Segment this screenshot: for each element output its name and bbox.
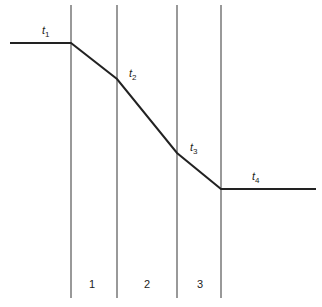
label-t4: t4 — [252, 170, 260, 185]
label-t2: t2 — [129, 67, 137, 82]
temperature-profile-line — [10, 43, 316, 189]
zone-label-1: 1 — [89, 278, 95, 290]
label-t1: t1 — [42, 24, 50, 39]
zone-label-3: 3 — [197, 278, 203, 290]
zone-label-2: 2 — [144, 278, 150, 290]
temperature-profile-diagram — [0, 0, 322, 307]
label-t3: t3 — [190, 141, 198, 156]
